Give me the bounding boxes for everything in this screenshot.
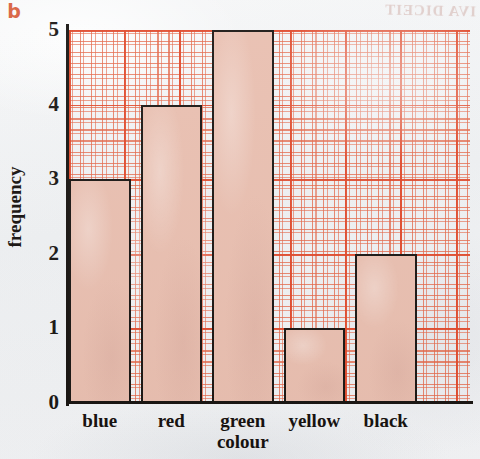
bar-green bbox=[212, 30, 274, 403]
y-tick-label-1: 1 bbox=[32, 317, 59, 337]
x-tick-label-black: black bbox=[326, 409, 446, 432]
y-tick-label-3: 3 bbox=[32, 168, 59, 188]
figure-page: b IVA DICEIT 012345 blueredgreenyellowbl… bbox=[0, 0, 480, 459]
plot-area bbox=[69, 30, 470, 403]
bar-blue bbox=[69, 179, 131, 403]
bar-red bbox=[141, 105, 203, 403]
y-tick-label-2: 2 bbox=[32, 243, 59, 263]
y-axis-line bbox=[66, 24, 69, 406]
bleed-through-text: IVA DICEIT bbox=[336, 1, 476, 26]
y-axis-title: frequency bbox=[4, 147, 26, 267]
bar-black bbox=[355, 254, 417, 403]
x-axis-line bbox=[66, 401, 473, 404]
y-tick-label-4: 4 bbox=[32, 94, 59, 114]
y-tick-label-5: 5 bbox=[32, 19, 59, 39]
x-axis-title: colour bbox=[183, 431, 303, 453]
bar-yellow bbox=[284, 328, 346, 403]
part-label-b: b bbox=[3, 1, 25, 23]
